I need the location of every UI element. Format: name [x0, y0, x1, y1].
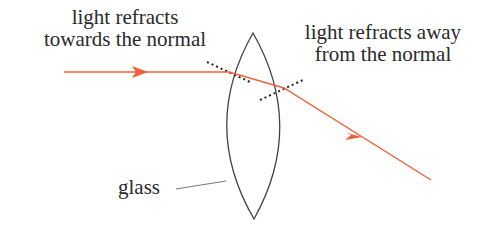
- label-glass: glass: [118, 176, 160, 198]
- label-towards-line1: light refracts: [20, 6, 230, 28]
- convex-lens: [227, 33, 280, 219]
- label-towards-normal: light refracts towards the normal: [20, 6, 230, 50]
- glass-leader-line: [176, 181, 226, 189]
- label-away-line1: light refracts away: [283, 21, 483, 43]
- label-towards-line2: towards the normal: [20, 28, 230, 50]
- label-away-normal: light refracts away from the normal: [283, 21, 483, 65]
- arrow-head-exit-icon: [345, 133, 362, 140]
- label-away-line2: from the normal: [283, 43, 483, 65]
- light-ray: [64, 72, 431, 180]
- refraction-diagram: light refracts towards the normal light …: [0, 0, 487, 229]
